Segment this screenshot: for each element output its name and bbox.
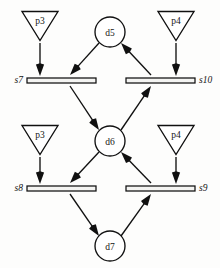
place-label: d7 <box>105 242 115 252</box>
arrowhead-icon <box>141 86 151 98</box>
arc-p4top-to-s10 <box>172 43 180 76</box>
arrowhead-icon <box>36 171 44 184</box>
transition-label: p4 <box>171 130 181 140</box>
transition-label: p4 <box>171 16 181 26</box>
place-node-d6[interactable]: d6 <box>95 126 125 156</box>
petri-net-canvas: s7s10s8s9 p3p4p3p4 d5d6d7 <box>0 0 220 268</box>
place-node-d7[interactable]: d7 <box>95 231 125 261</box>
bar-node-s10[interactable]: s10 <box>126 75 212 85</box>
arc-s8-to-d7 <box>70 194 99 236</box>
bar-node-s9[interactable]: s9 <box>126 183 208 193</box>
arc-line <box>76 43 99 68</box>
petri-net-diagram: s7s10s8s9 p3p4p3p4 d5d6d7 <box>0 0 220 268</box>
arrowhead-icon <box>172 63 180 76</box>
bar-node-s7[interactable]: s7 <box>15 75 96 85</box>
arc-s7-to-d6 <box>70 86 99 130</box>
bar-label: s8 <box>15 183 24 193</box>
arc-d7-to-s9 <box>121 194 151 236</box>
transition-label: p3 <box>35 130 45 140</box>
arc-line <box>121 201 146 236</box>
places-layer: d5d6d7 <box>95 17 125 261</box>
bar-label: s9 <box>199 183 208 193</box>
transition-node-p4-top[interactable]: p4 <box>158 12 194 41</box>
place-label: d5 <box>105 28 115 38</box>
transition-node-p3-bottom[interactable]: p3 <box>22 126 58 155</box>
arc-s10-to-d5 <box>121 43 151 75</box>
arc-p4bot-to-s9 <box>172 157 180 184</box>
bar-label: s7 <box>15 75 25 85</box>
arc-line <box>121 93 146 130</box>
bar-node-s8[interactable]: s8 <box>15 183 96 193</box>
bar-shape[interactable] <box>126 186 195 191</box>
transition-node-p3-top[interactable]: p3 <box>22 12 58 41</box>
transition-label: p3 <box>35 16 45 26</box>
arc-s9-to-d6 <box>121 152 151 183</box>
place-node-d5[interactable]: d5 <box>95 17 125 47</box>
arc-line <box>70 86 94 122</box>
arrowhead-icon <box>89 224 99 236</box>
arc-line <box>70 194 94 229</box>
arc-line <box>76 152 99 176</box>
arc-line <box>127 50 151 75</box>
arc-p3bot-to-s8 <box>36 157 44 184</box>
arc-d5-to-s7 <box>70 43 99 75</box>
bar-shape[interactable] <box>126 78 195 83</box>
arc-p3top-to-s7 <box>36 43 44 76</box>
bar-shape[interactable] <box>27 78 96 83</box>
arc-d6-to-s8 <box>70 152 99 183</box>
place-label: d6 <box>105 137 115 147</box>
bar-label: s10 <box>199 75 212 85</box>
arc-line <box>127 158 151 183</box>
arrowhead-icon <box>36 63 44 76</box>
arrowhead-icon <box>141 194 151 206</box>
arrowhead-icon <box>172 171 180 184</box>
arrowhead-icon <box>89 118 99 130</box>
arc-d6-to-s10 <box>121 86 151 130</box>
bar-shape[interactable] <box>27 186 96 191</box>
transition-node-p4-bottom[interactable]: p4 <box>158 126 194 155</box>
